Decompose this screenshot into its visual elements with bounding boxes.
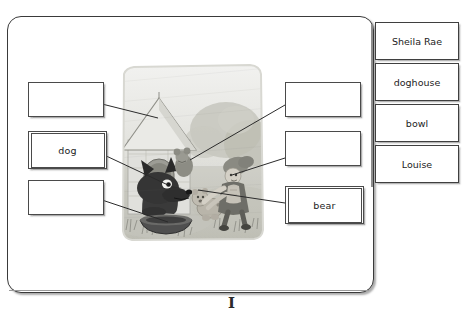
word-bank-item-2-label: bowl [406,118,428,129]
page-marker: I [0,295,463,311]
word-bank-item-doghouse[interactable]: doghouse [375,63,459,101]
answer-box-left-2[interactable]: dog [28,131,107,169]
answer-box-right-3-value: bear [288,188,362,223]
illustration [118,62,268,245]
answer-box-right-1[interactable] [285,82,361,117]
word-bank-item-0-label: Sheila Rae [392,36,442,47]
answer-box-right-3[interactable]: bear [285,186,364,224]
worksheet-stage: dog bear Sheila Rae doghouse bowl Louise… [0,0,463,315]
word-bank-item-louise[interactable]: Louise [375,145,459,183]
word-bank-item-bowl[interactable]: bowl [375,104,459,142]
word-bank-item-1-label: doghouse [394,77,441,88]
answer-box-left-2-value: dog [31,133,105,168]
answer-box-left-1[interactable] [28,82,104,117]
word-bank: Sheila Rae doghouse bowl Louise [371,22,459,187]
word-bank-spine [371,24,373,187]
illustration-artwork [118,62,268,245]
word-bank-item-sheila-rae[interactable]: Sheila Rae [375,22,459,60]
answer-box-left-3[interactable] [28,180,104,215]
bottom-divider [9,290,369,291]
word-bank-item-3-label: Louise [402,159,432,170]
answer-box-right-2[interactable] [285,131,361,166]
